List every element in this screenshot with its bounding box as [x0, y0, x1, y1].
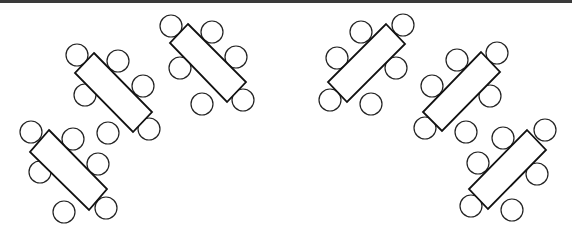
table-group [319, 14, 414, 115]
table-group [160, 15, 254, 115]
table-group [66, 44, 160, 144]
seating-floorplan [0, 0, 572, 231]
table-group [414, 42, 508, 143]
chair [191, 93, 213, 115]
chair [350, 21, 372, 43]
chair [20, 121, 42, 143]
chair [132, 75, 154, 97]
chair [360, 93, 382, 115]
chair [501, 199, 523, 221]
chair [97, 122, 119, 144]
chair [534, 119, 556, 141]
chair [455, 121, 477, 143]
chair [467, 152, 489, 174]
chair [53, 201, 75, 223]
